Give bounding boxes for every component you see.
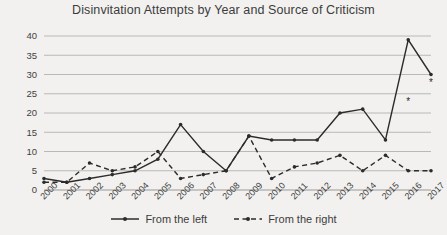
svg-text:2009: 2009 [243, 180, 264, 201]
svg-text:2006: 2006 [175, 180, 196, 201]
svg-text:0: 0 [32, 184, 37, 195]
svg-text:2000: 2000 [38, 180, 59, 201]
svg-text:2013: 2013 [334, 180, 355, 201]
svg-text:25: 25 [26, 88, 37, 99]
x-axis-tick-labels: 2000200120022003200420052006200720082009… [38, 180, 446, 201]
svg-text:*: * [406, 96, 410, 107]
svg-text:15: 15 [26, 127, 37, 138]
svg-text:2011: 2011 [289, 181, 310, 202]
svg-text:2017: 2017 [425, 180, 446, 201]
legend-item-from-the-left[interactable]: From the left [110, 213, 207, 225]
svg-text:2015: 2015 [380, 180, 401, 201]
svg-text:35: 35 [26, 50, 37, 61]
svg-text:2010: 2010 [266, 180, 287, 201]
chart-legend: From the left From the right [0, 213, 447, 225]
svg-text:2004: 2004 [129, 180, 150, 201]
svg-text:2008: 2008 [220, 180, 241, 201]
svg-text:2003: 2003 [107, 180, 128, 201]
y-axis-tick-labels: 0510152025303540 [26, 30, 37, 195]
svg-text:40: 40 [26, 30, 37, 41]
svg-text:30: 30 [26, 69, 37, 80]
svg-text:20: 20 [26, 107, 37, 118]
svg-text:2012: 2012 [312, 180, 333, 201]
svg-text:2007: 2007 [198, 180, 219, 201]
legend-solid-line-icon [110, 214, 140, 224]
svg-text:2014: 2014 [357, 180, 378, 201]
svg-text:2005: 2005 [152, 180, 173, 201]
data-series-layer [42, 38, 433, 184]
svg-text:2001: 2001 [61, 180, 82, 201]
legend-dashed-line-icon [233, 214, 263, 224]
svg-text:2002: 2002 [84, 180, 105, 201]
chart-annotations: ** [406, 77, 433, 107]
chart-plot-area: 0510152025303540 20002001200220032004200… [0, 0, 447, 212]
svg-text:*: * [429, 77, 433, 88]
svg-text:10: 10 [26, 146, 37, 157]
chart-container: Disinvitation Attempts by Year and Sourc… [0, 0, 447, 235]
grid-lines [44, 36, 431, 190]
legend-label-right: From the right [268, 213, 336, 225]
legend-label-left: From the left [145, 213, 207, 225]
svg-text:2016: 2016 [403, 180, 424, 201]
svg-text:5: 5 [32, 165, 37, 176]
legend-item-from-the-right[interactable]: From the right [233, 213, 336, 225]
